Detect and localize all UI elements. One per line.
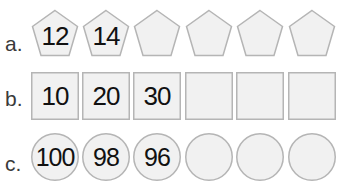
square-box (236, 72, 284, 120)
box-value (288, 133, 336, 181)
pentagon-box (133, 9, 181, 57)
square-box (185, 72, 233, 120)
box-value (236, 133, 284, 181)
square-box (288, 72, 336, 120)
circle-box: 96 (133, 133, 181, 181)
box-value: 96 (133, 133, 181, 181)
box-value: 14 (82, 12, 130, 60)
box-value (185, 72, 233, 120)
box-value: 20 (82, 72, 130, 120)
row-label: b. (5, 87, 23, 111)
row-c-circles: c. 1009896 (0, 132, 342, 184)
pentagon-box (288, 9, 336, 57)
pentagon-box (236, 9, 284, 57)
circle-box (236, 133, 284, 181)
box-value (236, 12, 284, 60)
row-label: a. (5, 32, 23, 56)
box-value (288, 12, 336, 60)
box-value: 30 (133, 72, 181, 120)
circle-box: 98 (82, 133, 130, 181)
circle-box (288, 133, 336, 181)
circle-box: 100 (31, 133, 79, 181)
box-value (236, 72, 284, 120)
box-value: 100 (31, 133, 79, 181)
square-box: 20 (82, 72, 130, 120)
box-value (185, 133, 233, 181)
pentagon-box: 12 (31, 9, 79, 57)
row-b-squares: b. 102030 (0, 72, 342, 122)
row-a-pentagons: a. 1214 (0, 9, 342, 59)
box-value (288, 72, 336, 120)
square-box: 30 (133, 72, 181, 120)
box-value: 98 (82, 133, 130, 181)
box-value (185, 12, 233, 60)
box-value: 10 (31, 72, 79, 120)
row-label: c. (5, 152, 21, 176)
pentagon-box (185, 9, 233, 57)
box-value: 12 (31, 12, 79, 60)
pentagon-box: 14 (82, 9, 130, 57)
circle-box (185, 133, 233, 181)
square-box: 10 (31, 72, 79, 120)
box-value (133, 12, 181, 60)
